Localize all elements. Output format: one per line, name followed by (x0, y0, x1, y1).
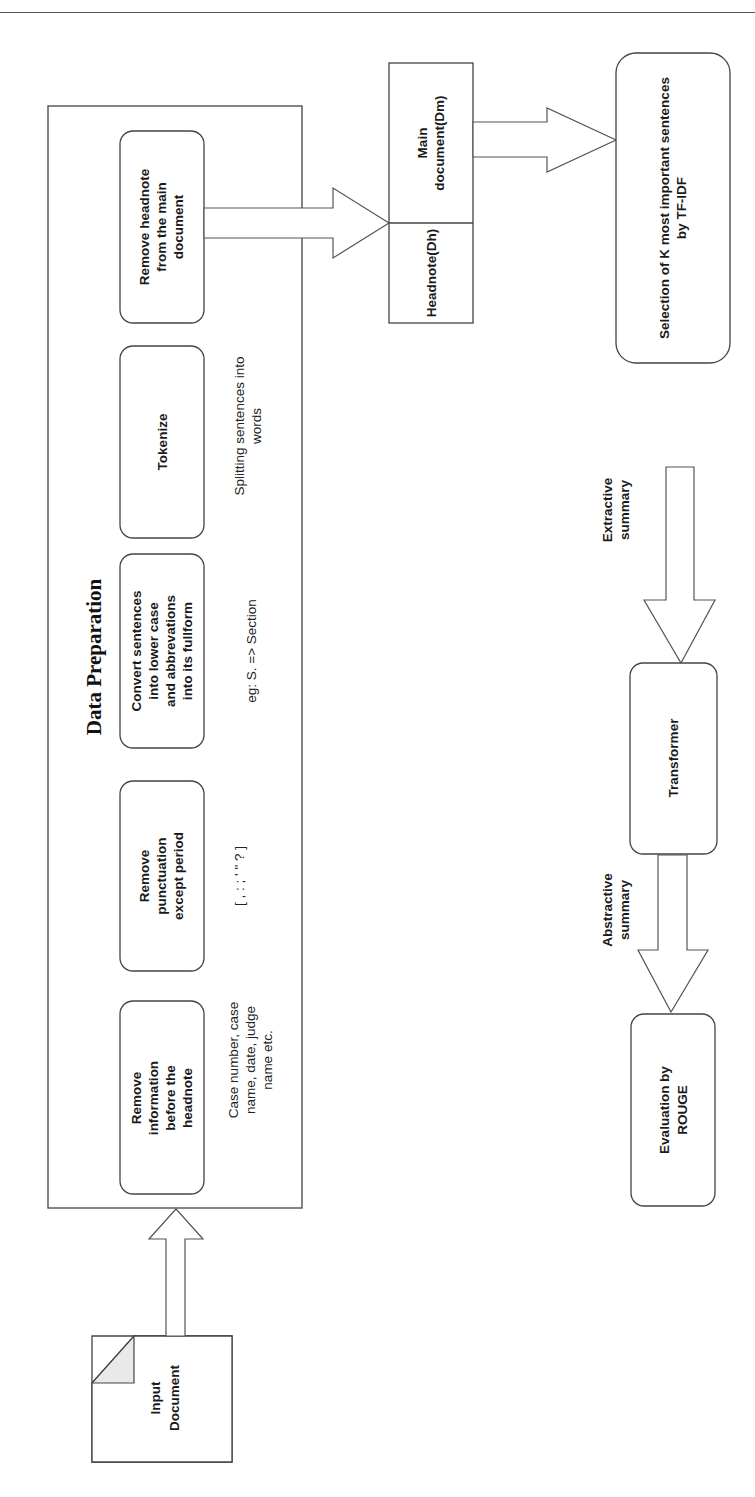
arrow-extractive-summary (644, 467, 715, 663)
step-remove-punctuation-note: [ , : ; ' " ? ] (232, 846, 247, 906)
label-line: Remove (129, 1071, 144, 1124)
label-line: Convert sentences (129, 591, 144, 712)
arrow-input-to-preparation (149, 1209, 203, 1336)
input-document-line-2: Document (167, 1364, 182, 1431)
label-line: headnote (180, 1068, 195, 1128)
label-line: summary (617, 480, 632, 541)
label-line: summary (617, 880, 632, 941)
label-line: Abstractive (600, 873, 615, 947)
label-line: except period (171, 832, 186, 920)
step-convert-sentences-note: eg: S. => Section (244, 599, 259, 703)
note-line: Splitting sentences into (232, 357, 247, 496)
label-line: Evaluation by (657, 1066, 672, 1154)
arrow-abstractive-summary (638, 855, 708, 1012)
data-preparation-title: Data Preparation (82, 578, 106, 735)
note-line: eg: S. => Section (244, 599, 259, 703)
label-line: Main (415, 128, 430, 159)
label-line: Transformer (666, 718, 681, 798)
label-line: by TF-IDF (674, 177, 689, 239)
label-line: document(Dm) (432, 95, 447, 190)
label-line: into its fullform (180, 602, 195, 700)
label-line: document (171, 194, 186, 259)
label-line: Remove headnote (137, 168, 152, 285)
arrow-main-document-to-selection (473, 108, 616, 172)
evaluation-rouge-box (631, 1014, 715, 1206)
note-line: [ , : ; ' " ? ] (232, 846, 247, 906)
step-tokenize-label: Tokenize (155, 413, 170, 470)
label-line: punctuation (154, 837, 169, 914)
selection-tfidf-box (616, 53, 730, 363)
note-line: Case number, case (226, 1002, 241, 1118)
headnote-label: Headnote(Dh) (424, 229, 439, 318)
label-line: into lower case (146, 602, 161, 700)
label-line: Tokenize (155, 413, 170, 470)
label-line: Extractive (600, 477, 615, 542)
label-line: and abbrevations (163, 595, 178, 707)
note-line: name etc. (260, 1030, 275, 1089)
transformer-label: Transformer (666, 718, 681, 798)
label-line: from the main (154, 182, 169, 271)
label-line: ROUGE (675, 1085, 690, 1135)
label-line: before the (163, 1065, 178, 1131)
pipeline-diagram: Data Preparation Input Document Remove i… (0, 0, 755, 1497)
note-line: words (249, 408, 264, 445)
input-document-line-1: Input (148, 1381, 163, 1414)
note-line: name, date, judge (243, 1006, 258, 1114)
label-line: Selection of K most important sentences (657, 77, 672, 339)
abstractive-summary-label: Abstractive summary (600, 873, 632, 947)
label-line: information (146, 1061, 161, 1135)
label-line: Remove (137, 849, 152, 902)
label-line: Headnote(Dh) (424, 229, 439, 318)
extractive-summary-label: Extractive summary (600, 477, 632, 542)
